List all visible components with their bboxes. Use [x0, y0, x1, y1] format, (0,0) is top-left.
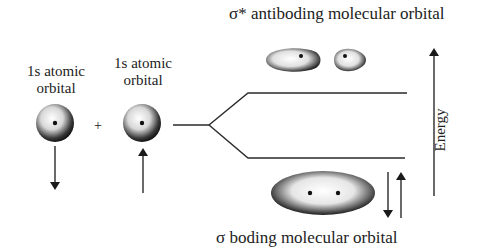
- atom-left-label-line2: orbital: [14, 80, 98, 97]
- atom-right-sphere: [123, 104, 161, 142]
- atom-left-label-line1: 1s atomic: [14, 63, 98, 80]
- mo-diagram: [0, 0, 483, 248]
- atom-right-label-line1: 1s atomic: [103, 55, 183, 72]
- atom-left-sphere: [36, 104, 74, 142]
- antibonding-orbital-lobes: [266, 48, 366, 71]
- energy-axis-label: Energy: [432, 108, 449, 151]
- bonding-title: σ boding molecular orbital: [216, 229, 397, 246]
- bonding-orbital-ellipse: [271, 171, 375, 215]
- atom-right-label-line2: orbital: [103, 72, 183, 89]
- plus-sign: +: [94, 117, 102, 134]
- energy-level-lines: [173, 93, 407, 158]
- atom-left-label: 1s atomic orbital: [14, 63, 98, 97]
- atom-right-label: 1s atomic orbital: [103, 55, 183, 89]
- antibonding-title: σ* antiboding molecular orbital: [229, 5, 444, 22]
